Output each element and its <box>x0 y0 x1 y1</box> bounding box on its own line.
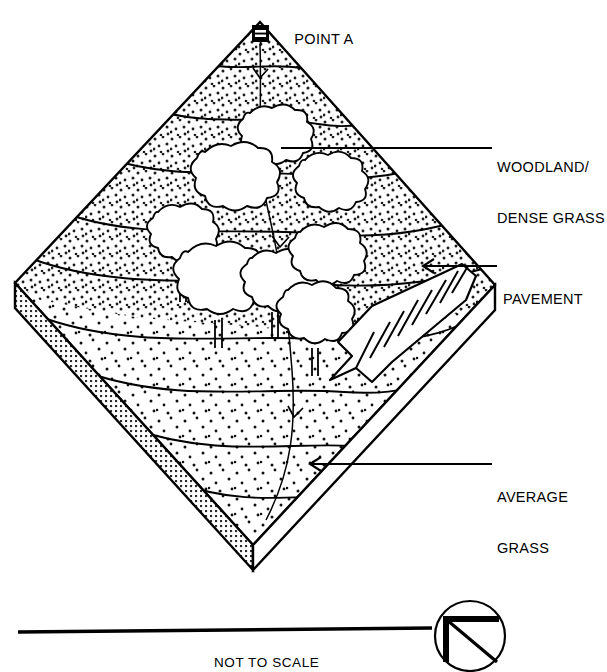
woodland-line-1: WOODLAND/ <box>497 159 605 176</box>
north-arrow-icon <box>435 601 505 671</box>
woodland-line-2: DENSE GRASS <box>497 210 605 227</box>
pavement-line-1: PAVEMENT <box>503 291 583 308</box>
average-grass-line-2: GRASS <box>497 540 568 557</box>
point-a-label: POINT A <box>277 14 353 65</box>
average-grass-line-1: AVERAGE <box>497 489 568 506</box>
scale-bar <box>18 628 432 632</box>
callout-label-average-grass: AVERAGE GRASS <box>497 455 568 591</box>
figure-canvas: POINT A WOODLAND/ DENSE GRASS PAVEMENT A… <box>0 0 607 672</box>
callout-label-woodland: WOODLAND/ DENSE GRASS <box>497 125 605 261</box>
scale-note: NOT TO SCALE <box>148 637 368 672</box>
callout-label-pavement: PAVEMENT <box>503 257 583 342</box>
